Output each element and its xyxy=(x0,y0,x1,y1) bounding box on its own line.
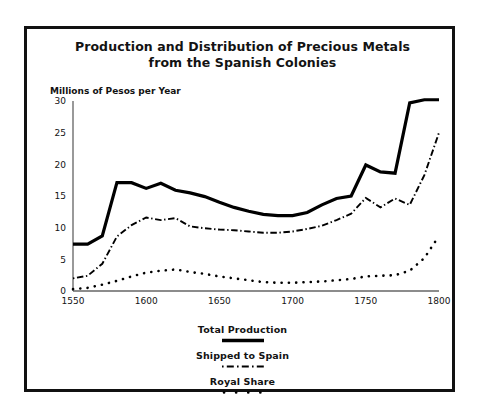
series-line-shipped-to-spain xyxy=(73,133,439,279)
legend-item-total-production: Total Production xyxy=(27,324,458,344)
x-tick-label: 1550 xyxy=(62,296,85,306)
legend-swatch-dotted xyxy=(213,389,273,396)
legend-swatch-solid xyxy=(213,337,273,344)
legend-label-shipped-to-spain: Shipped to Spain xyxy=(27,350,458,361)
series-line-royal-share xyxy=(73,236,439,289)
y-tick-label: 25 xyxy=(55,128,66,138)
legend-item-shipped-to-spain: Shipped to Spain xyxy=(27,350,458,370)
x-tick-label: 1750 xyxy=(354,296,377,306)
legend-label-total-production: Total Production xyxy=(27,324,458,335)
y-tick-labels: 051015202530 xyxy=(55,96,67,296)
y-tick-label: 20 xyxy=(55,160,67,170)
legend-swatch-dashdot xyxy=(213,363,273,370)
data-series-group xyxy=(73,100,439,289)
x-tick-labels: 155016001650170017501800 xyxy=(62,296,451,306)
y-tick-label: 15 xyxy=(55,191,66,201)
legend-label-royal-share: Royal Share xyxy=(27,376,458,387)
x-tick-label: 1600 xyxy=(135,296,158,306)
x-tick-label: 1800 xyxy=(428,296,451,306)
y-tick-label: 10 xyxy=(55,223,67,233)
x-tick-label: 1650 xyxy=(208,296,231,306)
figure-frame: Production and Distribution of Precious … xyxy=(24,26,455,392)
legend-item-royal-share: Royal Share xyxy=(27,376,458,396)
y-tick-label: 30 xyxy=(55,96,67,106)
y-tick-label: 0 xyxy=(60,286,66,296)
axes xyxy=(73,101,439,291)
series-line-total-production xyxy=(73,100,439,244)
y-tick-label: 5 xyxy=(60,255,66,265)
x-tick-label: 1700 xyxy=(281,296,304,306)
